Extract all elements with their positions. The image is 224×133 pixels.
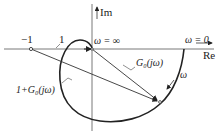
curve-point bbox=[159, 101, 162, 104]
minus-one-label: −1 bbox=[21, 34, 33, 45]
one-plus-g0-label: 1+G₀(jω) bbox=[16, 85, 55, 95]
omega-inf-label: ω = ∞ bbox=[94, 36, 120, 46]
nyquist-curve bbox=[60, 40, 184, 122]
omega-zero-label: ω = 0 bbox=[185, 35, 209, 45]
g0-leader bbox=[123, 65, 135, 70]
omega-label: ω bbox=[180, 70, 187, 80]
origin-point bbox=[91, 48, 93, 50]
nyquist-diagram: Im Re −1 1 ω = ∞ ω = 0 G₀(jω) 1+G₀(jω) ω bbox=[0, 0, 224, 133]
re-label: Re bbox=[203, 50, 215, 61]
minus-one-point bbox=[29, 47, 32, 50]
im-label: Im bbox=[100, 7, 112, 18]
one-plus-g0-leader bbox=[62, 78, 72, 83]
unit-label: 1 bbox=[59, 34, 65, 45]
g0-label: G₀(jω) bbox=[136, 58, 163, 68]
nyquist-plot-svg bbox=[0, 0, 224, 133]
